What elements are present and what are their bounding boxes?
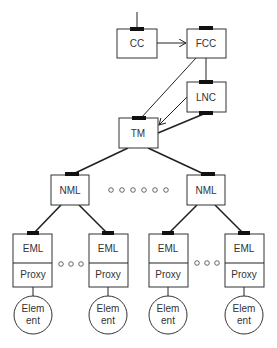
proxy-label: Proxy <box>231 269 257 280</box>
node-eml-3: EML Proxy <box>149 231 188 287</box>
element-label-2: ent <box>237 315 251 326</box>
element-label-1: Elem <box>97 303 120 314</box>
node-fcc-label: FCC <box>196 38 217 49</box>
port-icon <box>199 111 213 115</box>
node-nml-left-label: NML <box>59 185 81 196</box>
eml-label: EML <box>23 243 44 254</box>
port-icon <box>199 80 213 84</box>
node-element-1: Elem ent <box>14 296 52 334</box>
edge-lnc-tm-arrow <box>159 97 187 125</box>
edge-nml-eml2 <box>79 205 108 234</box>
port-icon <box>65 172 79 176</box>
node-cc-label: CC <box>130 38 144 49</box>
ellipsis-eml-right <box>195 261 220 266</box>
node-lnc: LNC <box>187 80 226 115</box>
port-icon <box>162 231 174 235</box>
diagram-canvas: CC FCC LNC TM NML NML <box>0 0 277 348</box>
port-icon <box>201 172 215 176</box>
edge-nml-eml4 <box>215 205 244 234</box>
node-element-4: Elem ent <box>225 296 263 334</box>
port-icon <box>199 26 213 30</box>
node-element-3: Elem ent <box>149 296 187 334</box>
ellipsis-eml-left <box>59 262 84 267</box>
port-icon <box>130 27 144 31</box>
element-label-2: ent <box>161 315 175 326</box>
element-label-2: ent <box>101 315 115 326</box>
node-lnc-label: LNC <box>196 92 216 103</box>
node-fcc: FCC <box>187 26 226 58</box>
eml-label: EML <box>158 243 179 254</box>
node-nml-left: NML <box>51 172 89 205</box>
node-tm: TM <box>119 116 158 148</box>
port-icon <box>238 231 250 235</box>
node-element-2: Elem ent <box>89 296 127 334</box>
edge-tm-nml-right <box>148 148 206 175</box>
edge-nml-eml1 <box>33 205 61 234</box>
element-label-2: ent <box>26 315 40 326</box>
node-tm-label: TM <box>131 128 145 139</box>
edge-lnc-tm-bold <box>158 113 206 133</box>
node-nml-right-label: NML <box>195 185 217 196</box>
edge-nml-eml3 <box>168 205 197 234</box>
proxy-label: Proxy <box>20 269 46 280</box>
eml-label: EML <box>234 243 255 254</box>
port-icon <box>27 231 39 235</box>
port-icon <box>132 116 146 120</box>
proxy-label: Proxy <box>155 269 181 280</box>
ellipsis-nml <box>109 188 169 193</box>
node-eml-1: EML Proxy <box>13 231 52 287</box>
element-label-1: Elem <box>22 303 45 314</box>
node-cc: CC <box>117 27 157 58</box>
eml-label: EML <box>98 243 119 254</box>
node-nml-right: NML <box>187 172 225 205</box>
node-eml-4: EML Proxy <box>225 231 264 287</box>
edge-tm-nml-left <box>71 148 128 175</box>
element-label-1: Elem <box>233 303 256 314</box>
element-label-1: Elem <box>157 303 180 314</box>
node-eml-2: EML Proxy <box>89 231 128 287</box>
proxy-label: Proxy <box>95 269 121 280</box>
port-icon <box>102 231 114 235</box>
